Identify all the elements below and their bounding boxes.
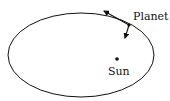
planet-label: Planet [133, 10, 169, 23]
sun-label: Sun [108, 65, 130, 78]
orbit-diagram: Planet Sun [0, 0, 170, 101]
force-arrow [125, 25, 129, 38]
velocity-arrow [104, 11, 129, 25]
orbit-ellipse [8, 13, 154, 97]
sun-dot [115, 57, 119, 61]
